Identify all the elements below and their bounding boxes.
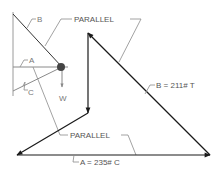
free-body-sketch: B A C W — [13, 12, 68, 103]
joint-dot — [57, 63, 65, 71]
force-polygon — [17, 33, 210, 155]
result-b: B = 211# T — [156, 81, 195, 90]
force-diagram: B A C W PARALLEL PARALLEL B = 211# T — [0, 0, 218, 174]
label-b: B — [37, 15, 42, 24]
leader-result-a — [73, 155, 79, 162]
result-labels: B = 211# T A = 235# C — [73, 81, 195, 167]
label-w: W — [59, 94, 67, 103]
leader-result-b — [145, 85, 155, 94]
label-parallel-bottom: PARALLEL — [70, 131, 110, 140]
label-a: A — [29, 56, 35, 65]
parallel-leaders: PARALLEL PARALLEL — [33, 15, 141, 155]
label-parallel-top: PARALLEL — [74, 15, 114, 24]
leader-parallel-top-right — [119, 19, 141, 62]
leader-b — [27, 19, 36, 28]
leader-a — [20, 60, 28, 67]
leader-parallel-bottom-right — [121, 135, 136, 155]
leader-parallel-top-left — [45, 19, 72, 46]
result-a: A = 235# C — [80, 158, 120, 167]
label-c: C — [28, 88, 34, 97]
